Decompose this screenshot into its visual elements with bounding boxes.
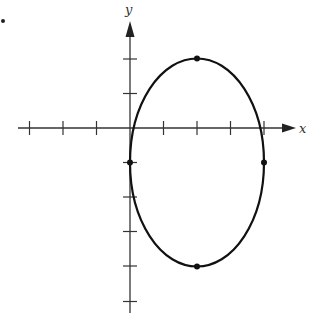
y-axis-arrow-icon <box>126 21 135 37</box>
vertex-right <box>261 160 267 166</box>
x-axis-arrow-icon <box>282 124 296 133</box>
vertex-bottom <box>194 264 200 270</box>
ellipse-vertices <box>127 56 267 270</box>
y-axis-label: y <box>124 2 133 17</box>
ellipse-curve <box>130 59 264 267</box>
x-axis: x <box>18 121 307 136</box>
x-axis-label: x <box>299 121 307 136</box>
vertex-top <box>194 56 200 62</box>
vertex-left <box>127 160 133 166</box>
ellipse-diagram: x y <box>0 0 311 319</box>
bullet-marker <box>1 19 5 23</box>
